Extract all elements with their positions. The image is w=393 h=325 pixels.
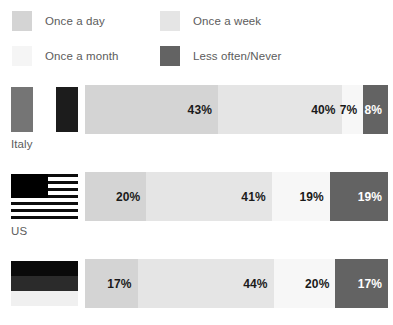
legend-swatch-once-a-month xyxy=(12,46,32,66)
bar-segment-value: 44% xyxy=(243,277,273,291)
us-flag-icon xyxy=(11,174,78,219)
country-flag-group: US xyxy=(11,174,78,237)
bar-segment-value: 40% xyxy=(311,103,341,117)
bar-segment-once-a-week[interactable]: 40% xyxy=(218,85,342,134)
stacked-bar: 17% 44% 20% 17% xyxy=(85,259,388,308)
legend-label-once-a-month: Once a month xyxy=(45,50,118,62)
bar-segment-less-often-never[interactable]: 19% xyxy=(330,172,388,221)
legend-item-once-a-week[interactable]: Once a week xyxy=(160,11,261,31)
country-flag-group xyxy=(11,261,78,312)
bar-segment-value: 43% xyxy=(188,103,218,117)
bar-segment-less-often-never[interactable]: 17% xyxy=(335,259,388,308)
chart-row: Italy 43% 40% 7% 8% xyxy=(0,78,393,165)
germany-flag-icon xyxy=(11,261,78,306)
bar-segment-once-a-day[interactable]: 43% xyxy=(85,85,218,134)
bar-segment-once-a-week[interactable]: 44% xyxy=(138,259,274,308)
bar-segment-value: 19% xyxy=(358,190,388,204)
legend-label-less-often-never: Less often/Never xyxy=(193,50,282,62)
legend-label-once-a-week: Once a week xyxy=(193,15,261,27)
bar-segment-value: 7% xyxy=(340,103,364,117)
chart-legend: Once a day Once a week Once a month Less… xyxy=(0,0,393,78)
bar-segment-once-a-month[interactable]: 20% xyxy=(274,259,336,308)
legend-item-once-a-day[interactable]: Once a day xyxy=(12,11,105,31)
bar-segment-less-often-never[interactable]: 8% xyxy=(363,85,388,134)
bar-segment-value: 19% xyxy=(300,190,330,204)
country-label: US xyxy=(11,225,78,237)
legend-label-once-a-day: Once a day xyxy=(45,15,105,27)
legend-swatch-once-a-day xyxy=(12,11,32,31)
bar-segment-value: 20% xyxy=(116,190,146,204)
stacked-bar: 20% 41% 19% 19% xyxy=(85,172,388,221)
legend-item-less-often-never[interactable]: Less often/Never xyxy=(160,46,282,66)
country-label: Italy xyxy=(11,138,78,150)
legend-swatch-less-often-never xyxy=(160,46,180,66)
bar-segment-once-a-week[interactable]: 41% xyxy=(146,172,271,221)
chart-rows: Italy 43% 40% 7% 8% US xyxy=(0,78,393,325)
bar-segment-value: 17% xyxy=(107,277,137,291)
bar-segment-once-a-month[interactable]: 19% xyxy=(272,172,330,221)
bar-segment-value: 17% xyxy=(358,277,388,291)
country-flag-group: Italy xyxy=(11,87,78,150)
bar-segment-once-a-month[interactable]: 7% xyxy=(342,85,364,134)
legend-swatch-once-a-week xyxy=(160,11,180,31)
bar-segment-value: 8% xyxy=(364,103,388,117)
stacked-bar: 43% 40% 7% 8% xyxy=(85,85,388,134)
italy-flag-icon xyxy=(11,87,78,132)
legend-item-once-a-month[interactable]: Once a month xyxy=(12,46,118,66)
bar-segment-once-a-day[interactable]: 20% xyxy=(85,172,146,221)
bar-segment-once-a-day[interactable]: 17% xyxy=(85,259,138,308)
bar-segment-value: 41% xyxy=(241,190,271,204)
chart-row: 17% 44% 20% 17% xyxy=(0,252,393,325)
bar-segment-value: 20% xyxy=(305,277,335,291)
chart-row: US 20% 41% 19% 19% xyxy=(0,165,393,252)
